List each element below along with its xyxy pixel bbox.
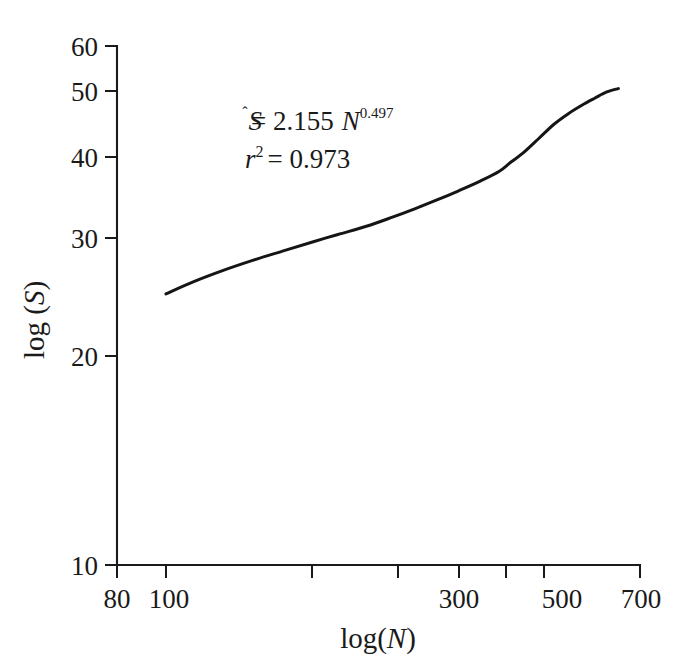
y-axis-title: log (S) xyxy=(18,281,51,359)
y-tick-label-40: 40 xyxy=(71,143,98,173)
x-tick-label-100: 100 xyxy=(149,584,190,614)
x-tick-label-700: 700 xyxy=(621,584,662,614)
y-tick-label-20: 20 xyxy=(71,342,98,372)
y-tick-label-10: 10 xyxy=(71,551,98,581)
x-tick-label-300: 300 xyxy=(439,584,480,614)
x-axis-title: log(N) xyxy=(340,622,416,655)
r-squared-value: = 0.973 xyxy=(268,144,351,174)
r-symbol: r xyxy=(245,144,256,174)
y-tick-label-50: 50 xyxy=(71,77,98,107)
y-tick-label-60: 60 xyxy=(71,32,98,62)
exponent-value: 0.497 xyxy=(360,105,394,121)
x-tick-label-500: 500 xyxy=(542,584,583,614)
y-tick-label-30: 30 xyxy=(71,224,98,254)
equation-equals: = 2.155 xyxy=(251,106,334,136)
n-symbol: N xyxy=(341,106,362,136)
chart-figure: 10 20 30 40 50 60 80 100 300 500 700 Ŝ=… xyxy=(0,0,685,664)
x-tick-label-80: 80 xyxy=(104,584,131,614)
r-superscript: 2 xyxy=(256,143,264,160)
